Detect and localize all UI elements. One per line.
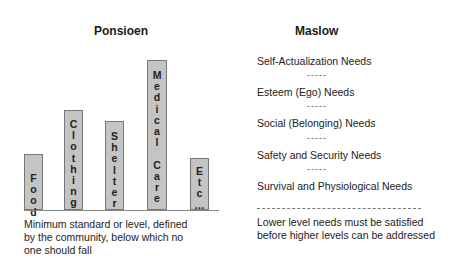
bar-letter: g bbox=[70, 197, 76, 208]
bar-letter: d bbox=[30, 207, 36, 218]
bar-letter: o bbox=[70, 141, 76, 152]
need-self-actualization: Self-Actualization Needs bbox=[257, 55, 371, 67]
separator: ----- bbox=[307, 70, 327, 80]
caption-line: one should fall bbox=[24, 244, 187, 257]
separator: ----- bbox=[307, 164, 327, 174]
bar-clothing: Clothing bbox=[64, 110, 83, 210]
bar-letter: c bbox=[197, 188, 203, 199]
need-social: Social (Belonging) Needs bbox=[257, 117, 375, 129]
caption-line: before higher levels can be addressed bbox=[257, 229, 435, 242]
bar-letter: r bbox=[112, 198, 116, 209]
ponsioen-title: Ponsioen bbox=[94, 24, 148, 38]
bar-etc: Etc… bbox=[190, 158, 209, 210]
bar-letter: o bbox=[30, 195, 36, 206]
bar-letter bbox=[156, 148, 159, 159]
caption-line: Minimum standard or level, defined bbox=[24, 218, 187, 231]
bar-letter: d bbox=[154, 92, 160, 103]
bar-shelter: Shelter bbox=[105, 121, 124, 210]
divider-line bbox=[257, 208, 421, 209]
bar-letter: e bbox=[154, 193, 160, 204]
bar-medical-care: Medical Care bbox=[147, 60, 167, 210]
chart-baseline bbox=[24, 210, 219, 211]
separator: ----- bbox=[307, 133, 327, 143]
maslow-caption: Lower level needs must be satisfied befo… bbox=[257, 216, 435, 242]
need-esteem: Esteem (Ego) Needs bbox=[257, 86, 354, 98]
bar-letter: e bbox=[112, 153, 118, 164]
maslow-title: Maslow bbox=[295, 24, 338, 38]
bar-food: Food bbox=[24, 154, 43, 210]
need-safety: Safety and Security Needs bbox=[257, 149, 381, 161]
caption-line: Lower level needs must be satisfied bbox=[257, 216, 435, 229]
ponsioen-caption: Minimum standard or level, defined by th… bbox=[24, 218, 187, 257]
need-survival: Survival and Physiological Needs bbox=[257, 180, 412, 192]
separator: ----- bbox=[307, 101, 327, 111]
caption-line: by the community, below which no bbox=[24, 231, 187, 244]
